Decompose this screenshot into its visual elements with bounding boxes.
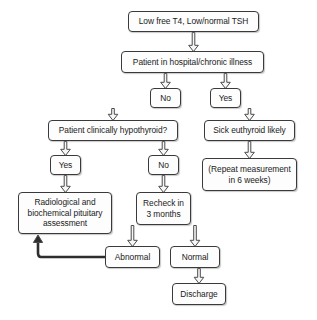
e-hospital-to-no [161, 74, 171, 89]
e-hospital-to-yes [221, 74, 231, 89]
e-recheck-to-abnormal [128, 226, 138, 247]
node-label: Normal [174, 252, 216, 263]
node-recheck-3-months[interactable]: Recheck in3 months [136, 192, 191, 225]
node-no-hypothyroid[interactable]: No [148, 155, 179, 175]
e-yes-to-pituitary [61, 176, 71, 193]
e-sick-to-repeat [245, 142, 255, 159]
node-label: Discharge [176, 289, 222, 300]
node-clinically-hypothyroid[interactable]: Patient clinically hypothyroid? [48, 120, 178, 141]
node-label: Patient clinically hypothyroid? [52, 125, 174, 136]
node-sick-euthyroid[interactable]: Sick euthyroid likely [204, 120, 295, 141]
node-normal[interactable]: Normal [170, 246, 220, 268]
e-recheck-to-normal [190, 226, 200, 247]
node-pituitary-assessment[interactable]: Radiological andbiochemical pituitaryass… [18, 192, 112, 234]
node-label: Abnormal [109, 252, 156, 263]
node-yes-hospital[interactable]: Yes [210, 88, 241, 108]
node-low-free-t4[interactable]: Low free T4, Low/normal TSH [128, 11, 259, 32]
node-label: No [152, 160, 175, 171]
node-label: Yes [214, 93, 237, 104]
e-no-to-hypothyroid [108, 109, 118, 121]
node-abnormal[interactable]: Abnormal [105, 246, 160, 268]
node-repeat-measurement[interactable]: (Repeat measurementin 6 weeks) [202, 158, 297, 191]
node-label: Sick euthyroid likely [208, 125, 291, 136]
e-abnormal-to-pituitary-head [33, 235, 42, 243]
node-no-hospital[interactable]: No [150, 88, 181, 108]
node-label: Radiological andbiochemical pituitaryass… [22, 197, 108, 229]
e-no-to-recheck [159, 176, 169, 193]
node-label: No [154, 93, 177, 104]
flowchart-canvas: Low free T4, Low/normal TSH Patient in h… [0, 0, 317, 320]
node-label: Patient in hospital/chronic illness [125, 57, 260, 68]
node-discharge[interactable]: Discharge [172, 283, 226, 305]
e-yes-to-sick [245, 109, 255, 121]
e-abnormal-to-pituitary-shaft [38, 242, 105, 257]
node-label: (Repeat measurementin 6 weeks) [206, 164, 293, 185]
e-hypothyroid-to-no [159, 142, 169, 156]
node-patient-in-hospital[interactable]: Patient in hospital/chronic illness [121, 51, 264, 73]
node-label: Yes [54, 160, 77, 171]
e-hypothyroid-to-yes [61, 142, 71, 156]
e-normal-to-discharge [194, 269, 204, 284]
node-yes-hypothyroid[interactable]: Yes [50, 155, 81, 175]
node-label: Low free T4, Low/normal TSH [132, 16, 255, 27]
e-t4-to-hospital [189, 33, 199, 52]
node-label: Recheck in3 months [140, 198, 187, 219]
